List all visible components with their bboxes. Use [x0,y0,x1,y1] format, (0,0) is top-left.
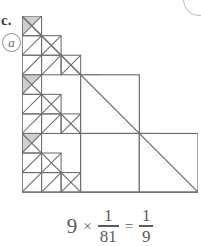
fraction-one-eightyfirst: 1 81 [98,207,119,244]
equation-row: 9 × 1 81 = 1 9 [22,206,198,246]
equation-multiplier: 9 [67,216,78,237]
square-hole [81,133,140,192]
fraction-a-denominator: 81 [98,227,119,245]
item-letter-label: c. [1,13,11,28]
worksheet-figure-page: c. a 9 × 1 81 = 1 9 [0,0,201,246]
circled-answer-mark: a [2,33,23,54]
circled-answer-letter: a [2,33,21,52]
fraction-b-numerator: 1 [140,207,153,225]
sierpinski-triangle-figure [22,16,198,204]
partial-circle-decoration [183,0,201,16]
fraction-a-numerator: 1 [102,207,115,225]
fraction-b-denominator: 9 [140,227,153,245]
fraction-one-ninth: 1 9 [139,207,153,244]
times-symbol: × [82,219,92,234]
equals-symbol: = [124,219,134,234]
